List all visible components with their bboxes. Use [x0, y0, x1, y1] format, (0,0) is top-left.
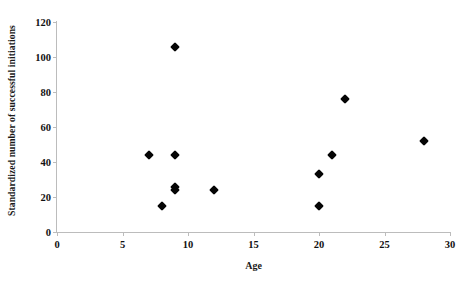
data-point	[314, 169, 324, 179]
x-tick-mark	[254, 232, 255, 236]
scatter-chart: Standardized number of successful initia…	[0, 0, 459, 286]
x-tick-mark	[188, 232, 189, 236]
data-point	[157, 201, 167, 211]
x-tick-mark	[385, 232, 386, 236]
x-tick-label: 0	[54, 239, 59, 250]
y-tick-label: 0	[46, 227, 51, 238]
y-tick-mark	[53, 92, 57, 93]
y-tick-mark	[53, 162, 57, 163]
x-tick-label: 25	[379, 239, 390, 250]
data-point	[144, 150, 154, 160]
x-tick-mark	[123, 232, 124, 236]
data-point	[340, 94, 350, 104]
x-tick-label: 5	[120, 239, 125, 250]
data-point	[419, 136, 429, 146]
y-tick-mark	[53, 22, 57, 23]
data-point	[327, 150, 337, 160]
y-axis-title-text: Standardized number of successful initia…	[6, 25, 17, 216]
x-tick-label: 20	[314, 239, 325, 250]
x-axis-title: Age	[57, 260, 450, 271]
data-point	[170, 150, 180, 160]
data-point	[314, 201, 324, 211]
x-tick-mark	[57, 232, 58, 236]
y-tick-label: 40	[41, 157, 52, 168]
y-tick-mark	[53, 197, 57, 198]
y-axis-title: Standardized number of successful initia…	[0, 0, 22, 240]
y-tick-label: 20	[41, 192, 52, 203]
x-tick-label: 10	[183, 239, 194, 250]
y-tick-mark	[53, 127, 57, 128]
x-tick-mark	[450, 232, 451, 236]
data-point	[209, 185, 219, 195]
y-tick-label: 80	[41, 87, 52, 98]
plot-area: 020406080100120 051015202530	[57, 22, 450, 232]
y-tick-mark	[53, 57, 57, 58]
y-tick-label: 100	[35, 52, 51, 63]
y-tick-label: 120	[35, 17, 51, 28]
y-tick-label: 60	[41, 122, 52, 133]
x-tick-mark	[319, 232, 320, 236]
data-point	[170, 42, 180, 52]
x-tick-label: 30	[445, 239, 456, 250]
x-tick-label: 15	[248, 239, 259, 250]
